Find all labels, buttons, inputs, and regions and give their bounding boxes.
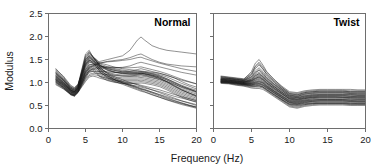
y-tick-label: 1.0: [29, 77, 42, 88]
x-tick-label: 5: [83, 134, 88, 145]
x-tick-label: 20: [191, 134, 202, 145]
y-tick-label: 0.0: [29, 123, 42, 134]
figure-container: 051015200.00.51.01.52.02.5Normal05101520…: [0, 0, 379, 167]
y-tick-label: 1.5: [29, 54, 42, 65]
x-tick-label: 20: [360, 134, 371, 145]
y-tick-label: 2.5: [29, 8, 42, 19]
x-tick-label: 0: [211, 134, 216, 145]
chart-svg: 051015200.00.51.01.52.02.5Normal05101520…: [0, 0, 379, 167]
y-tick-label: 0.5: [29, 100, 42, 111]
plot-panel-twist: 05101520Twist: [210, 14, 371, 145]
x-axis-title: Frequency (Hz): [171, 152, 243, 164]
panel-title-normal: Normal: [154, 16, 190, 28]
data-curve-curve-1: [221, 62, 365, 92]
y-axis-title: Modulus: [3, 51, 15, 91]
x-tick-label: 0: [46, 134, 51, 145]
y-tick-label: 2.0: [29, 31, 42, 42]
x-tick-label: 10: [117, 134, 128, 145]
plot-panel-normal: 051015200.00.51.01.52.02.5Normal: [29, 8, 202, 145]
panel-title-twist: Twist: [333, 16, 360, 28]
x-tick-label: 10: [284, 134, 295, 145]
x-tick-label: 15: [322, 134, 333, 145]
plot-frame: [214, 14, 366, 129]
data-curve-curve-20: [56, 55, 197, 106]
x-tick-label: 5: [249, 134, 254, 145]
x-tick-label: 15: [154, 134, 165, 145]
curve-group: [56, 37, 197, 108]
curve-group: [221, 60, 365, 109]
data-curve-curve-21: [56, 54, 197, 107]
